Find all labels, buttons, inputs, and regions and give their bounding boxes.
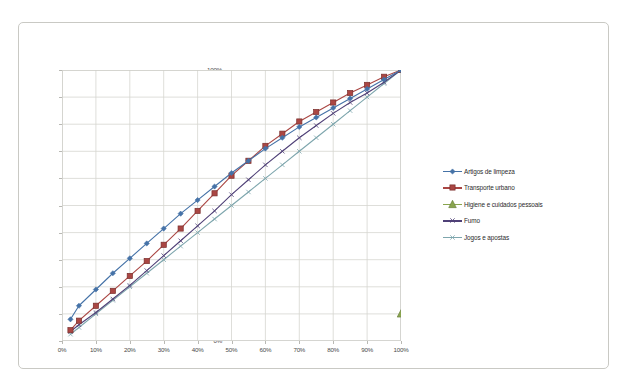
- legend-item[interactable]: Fumo: [443, 213, 603, 230]
- legend-item-label: Higiene e cuidados pessoais: [464, 201, 543, 208]
- legend-swatch-icon: [443, 167, 462, 176]
- x-axis-tickmark: [96, 341, 97, 344]
- x-axis-tickmark: [401, 341, 402, 344]
- x-axis-tick-label: 50%: [217, 347, 247, 353]
- x-axis-tick-label: 10%: [81, 347, 111, 353]
- legend-item-label: Transporte urbano: [464, 184, 515, 191]
- series-line: [68, 70, 401, 322]
- x-axis-tick-label: 40%: [183, 347, 213, 353]
- x-axis-tick-label: 70%: [284, 347, 314, 353]
- x-axis-tick-label: 60%: [250, 347, 280, 353]
- legend-item[interactable]: Higiene e cuidados pessoais: [443, 196, 603, 213]
- legend-item[interactable]: Artigos de limpeza: [443, 163, 603, 180]
- legend-item-label: Fumo: [464, 217, 480, 224]
- legend-item-label: Artigos de limpeza: [464, 168, 515, 175]
- legend-item[interactable]: Jogos e apostas: [443, 229, 603, 246]
- legend-swatch-icon: [443, 233, 462, 242]
- x-axis-tickmark: [265, 341, 266, 344]
- chart-legend: Artigos de limpezaTransporte urbanoHigie…: [443, 163, 603, 246]
- x-axis-tick-label: 0%: [47, 347, 77, 353]
- series-line: [68, 70, 401, 336]
- x-axis-tick-label: 90%: [352, 347, 382, 353]
- x-axis-tick-label: 80%: [318, 347, 348, 353]
- legend-swatch-icon: [443, 200, 462, 209]
- chart-frame: 0%10%20%30%40%50%60%70%80%90%100% 0%10%2…: [18, 22, 609, 369]
- x-axis-tickmark: [333, 341, 334, 344]
- legend-swatch-icon: [443, 216, 462, 225]
- page-canvas: 0%10%20%30%40%50%60%70%80%90%100% 0%10%2…: [0, 0, 626, 388]
- x-axis-tick-label: 20%: [115, 347, 145, 353]
- legend-swatch-icon: [443, 183, 462, 192]
- x-axis-tick-label: 30%: [149, 347, 179, 353]
- plot-svg: [62, 70, 401, 341]
- x-axis-tickmark: [367, 341, 368, 344]
- legend-item-label: Jogos e apostas: [464, 234, 509, 241]
- x-axis-tickmark: [299, 341, 300, 344]
- x-axis-tickmark: [198, 341, 199, 344]
- series-line: [397, 310, 401, 317]
- x-axis-tickmark: [232, 341, 233, 344]
- x-axis-tickmark: [62, 341, 63, 344]
- x-axis-tickmark: [164, 341, 165, 344]
- chart-area: 0%10%20%30%40%50%60%70%80%90%100% 0%10%2…: [19, 23, 608, 368]
- legend-item[interactable]: Transporte urbano: [443, 180, 603, 197]
- plot-region: [62, 70, 401, 341]
- x-axis-tick-label: 100%: [386, 347, 416, 353]
- x-axis-tickmark: [130, 341, 131, 344]
